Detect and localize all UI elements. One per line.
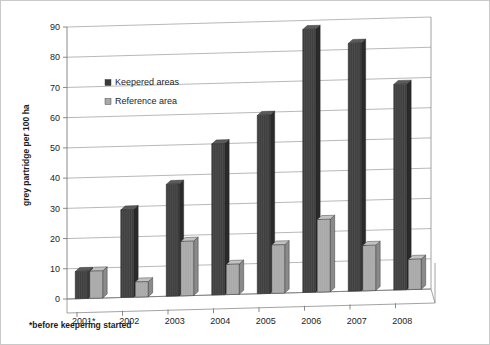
bar-reference-2008 bbox=[408, 255, 426, 290]
legend: Keepered areasReference area bbox=[105, 77, 180, 106]
bar-reference-2004 bbox=[226, 260, 244, 295]
y-axis-tick-labels: 0102030405060708090 bbox=[50, 22, 67, 304]
bar-keepered-2008 bbox=[394, 80, 412, 290]
y-tick-90: 90 bbox=[50, 22, 60, 32]
y-tick-80: 80 bbox=[50, 52, 60, 62]
legend-label-keepered: Keepered areas bbox=[115, 77, 180, 87]
bar-reference-2007 bbox=[363, 241, 381, 291]
legend-swatch-keepered bbox=[105, 80, 111, 86]
bar-reference-2006 bbox=[317, 215, 335, 292]
x-tick-2004: 2004 bbox=[210, 316, 230, 326]
bar-reference-2001* bbox=[90, 267, 108, 299]
x-tick-2003: 2003 bbox=[165, 316, 185, 326]
y-tick-10: 10 bbox=[50, 264, 60, 274]
x-tick-2007: 2007 bbox=[347, 316, 367, 326]
bar-reference-2002 bbox=[135, 278, 153, 297]
y-tick-60: 60 bbox=[50, 113, 60, 123]
x-tick-2005: 2005 bbox=[256, 316, 276, 326]
bar-reference-2005 bbox=[272, 241, 290, 294]
legend-swatch-reference bbox=[105, 99, 111, 105]
bar-chart: 0102030405060708090 2001*200220032004200… bbox=[1, 1, 490, 345]
y-axis-title: grey partridge per 100 ha bbox=[21, 104, 31, 206]
y-tick-70: 70 bbox=[50, 83, 60, 93]
y-tick-30: 30 bbox=[50, 204, 60, 214]
footnote: *before keepering started bbox=[29, 320, 132, 330]
bars bbox=[75, 25, 426, 299]
x-tick-2008: 2008 bbox=[392, 316, 412, 326]
x-tick-2006: 2006 bbox=[301, 316, 321, 326]
y-tick-0: 0 bbox=[55, 294, 60, 304]
bar-reference-2003 bbox=[181, 237, 199, 296]
chart-container: 0102030405060708090 2001*200220032004200… bbox=[0, 0, 490, 345]
y-tick-50: 50 bbox=[50, 143, 60, 153]
y-tick-40: 40 bbox=[50, 173, 60, 183]
legend-label-reference: Reference area bbox=[115, 96, 177, 106]
y-tick-20: 20 bbox=[50, 234, 60, 244]
